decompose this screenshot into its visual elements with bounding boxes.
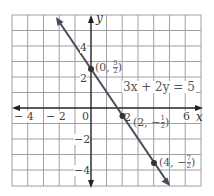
p3-close: ) xyxy=(191,156,195,169)
line-arrow-down xyxy=(162,178,171,187)
y-axis-arrow-down xyxy=(88,180,94,188)
tick-y-neg2: −2 xyxy=(74,134,90,145)
tick-y-4: 4 xyxy=(80,42,87,53)
p2-open: (2, − xyxy=(133,116,161,129)
point-label-2-neg1-2: (2, −12) xyxy=(133,115,169,130)
tick-x-neg4: − 4 xyxy=(14,111,34,122)
tick-x-neg2: − 2 xyxy=(46,111,66,122)
point-label-4-neg7-2: (4, −72) xyxy=(159,155,195,170)
y-axis-arrow-up xyxy=(88,15,94,23)
p1-close: ) xyxy=(118,61,122,74)
point-0-5-2 xyxy=(88,66,94,72)
p2-close: ) xyxy=(165,116,169,129)
y-axis-label: y xyxy=(96,12,103,24)
x-axis-label: x xyxy=(196,111,203,123)
tick-x-6: 6 xyxy=(183,111,190,122)
point-4-neg7-2 xyxy=(151,160,157,166)
equation-label: 3x + 2y = 5 xyxy=(122,81,196,93)
tick-y-neg4: −4 xyxy=(74,165,90,176)
tick-x-0: 0 xyxy=(82,111,89,122)
p1-open: (0, xyxy=(95,61,113,74)
tick-y-2: 2 xyxy=(80,73,87,84)
point-label-0-5-2: (0, 52) xyxy=(95,60,122,75)
tick-x-2: 2 xyxy=(124,112,131,123)
p3-open: (4, − xyxy=(159,156,187,169)
line-arrow-up xyxy=(56,17,64,26)
